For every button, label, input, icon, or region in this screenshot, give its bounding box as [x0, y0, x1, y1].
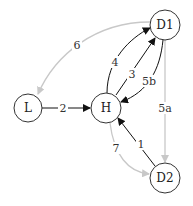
edge-label-7: 7	[113, 142, 120, 155]
edge-l-to-h: 2	[42, 102, 90, 115]
edge-label-5b: 5b	[142, 75, 156, 88]
node-d1: D1	[150, 10, 180, 40]
node-h: H	[91, 93, 121, 123]
edge-d1-to-l: 6	[38, 22, 150, 94]
edge-label-6: 6	[74, 39, 81, 52]
node-label-l: L	[24, 101, 32, 115]
node-d2: D2	[150, 163, 180, 193]
node-label-d2: D2	[156, 171, 173, 185]
edge-label-1: 1	[138, 138, 145, 151]
edge-label-3: 3	[129, 68, 136, 81]
edge-label-5a: 5a	[158, 102, 172, 115]
edge-label-2: 2	[60, 102, 67, 115]
edge-d2-to-h: 1	[118, 118, 155, 166]
edge-label-4: 4	[112, 56, 119, 69]
state-diagram: 6 5a 7 2 4 3	[0, 0, 193, 206]
node-l: L	[14, 94, 42, 122]
node-label-h: H	[101, 101, 111, 115]
node-label-d1: D1	[156, 18, 173, 32]
